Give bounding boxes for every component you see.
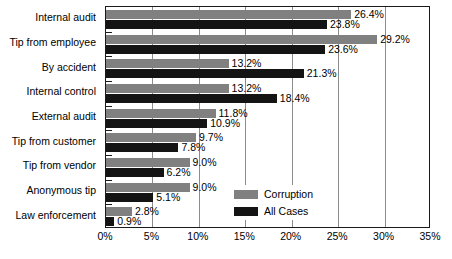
- bar-value-label: 5.1%: [156, 192, 180, 203]
- bar-value-label: 10.9%: [210, 118, 240, 129]
- bar-corruption: [106, 59, 229, 68]
- x-tick-label: 25%: [327, 230, 348, 242]
- bar-value-label: 9.0%: [193, 182, 217, 193]
- bar-all-cases: [106, 193, 153, 202]
- bar-value-label: 13.2%: [232, 58, 262, 69]
- bar-all-cases: [106, 45, 325, 54]
- category-tick: [105, 155, 112, 156]
- bar-value-label: 9.0%: [193, 157, 217, 168]
- chart-legend: CorruptionAll Cases: [234, 185, 322, 220]
- bar-value-label: 6.2%: [167, 167, 191, 178]
- legend-item[interactable]: All Cases: [234, 203, 322, 219]
- category-label: External audit: [32, 111, 96, 122]
- bar-corruption: [106, 109, 216, 118]
- category-label: Tip from employee: [9, 37, 96, 48]
- category-label: Anonymous tip: [27, 185, 96, 196]
- bar-value-label: 18.4%: [280, 93, 310, 104]
- bar-all-cases: [106, 143, 178, 152]
- legend-label: All Cases: [264, 206, 308, 217]
- category-tick: [105, 204, 112, 205]
- category-label: Law enforcement: [15, 210, 96, 221]
- bar-value-label: 0.9%: [117, 216, 141, 227]
- bar-corruption: [106, 84, 229, 93]
- legend-swatch-icon: [234, 190, 258, 199]
- category-axis: Internal auditTip from employeeBy accide…: [0, 6, 100, 228]
- category-tick: [105, 106, 112, 107]
- category-label: By accident: [42, 62, 96, 73]
- bar-all-cases: [106, 217, 114, 226]
- category-label: Internal audit: [35, 12, 96, 23]
- bar-all-cases: [106, 69, 304, 78]
- category-label: Tip from customer: [12, 136, 96, 147]
- bar-value-label: 7.8%: [181, 142, 205, 153]
- category-tick: [105, 56, 112, 57]
- x-tick-label: 30%: [373, 230, 394, 242]
- category-tick: [105, 130, 112, 131]
- legend-label: Corruption: [264, 189, 313, 200]
- legend-swatch-icon: [234, 207, 258, 216]
- x-axis: 0%5%10%15%20%25%30%35%: [0, 230, 452, 250]
- category-tick: [105, 81, 112, 82]
- x-tick-label: 15%: [234, 230, 255, 242]
- x-tick-label: 35%: [419, 230, 440, 242]
- bar-chart: Internal auditTip from employeeBy accide…: [0, 0, 452, 259]
- x-tick-label: 5%: [144, 230, 159, 242]
- x-tick-label: 0%: [97, 230, 112, 242]
- bar-value-label: 23.6%: [328, 44, 358, 55]
- category-label: Internal control: [27, 86, 96, 97]
- legend-item[interactable]: Corruption: [234, 186, 322, 202]
- bar-value-label: 21.3%: [307, 68, 337, 79]
- category-tick: [105, 32, 112, 33]
- x-tick-label: 10%: [187, 230, 208, 242]
- bar-value-label: 13.2%: [232, 83, 262, 94]
- bar-all-cases: [106, 94, 277, 103]
- bar-all-cases: [106, 119, 207, 128]
- x-tick-label: 20%: [280, 230, 301, 242]
- bar-value-label: 29.2%: [380, 34, 410, 45]
- bar-all-cases: [106, 20, 327, 29]
- bar-all-cases: [106, 168, 164, 177]
- bar-corruption: [106, 10, 351, 19]
- bar-value-label: 23.8%: [330, 19, 360, 30]
- category-tick: [105, 180, 112, 181]
- category-label: Tip from vendor: [23, 160, 96, 171]
